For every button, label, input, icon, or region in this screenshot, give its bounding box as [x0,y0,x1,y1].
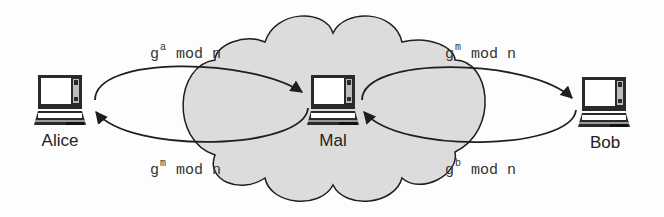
msg-rest: mod n [462,162,516,179]
msg-rest: mod n [167,162,221,179]
msg-exponent: b [455,158,461,169]
msg-base: g [445,46,454,63]
node-label-bob: Bob [590,133,620,152]
msg-exponent: m [455,42,461,53]
msg-exponent: a [160,42,166,53]
msg-label-bob-to-mal: g b mod n [445,158,516,179]
alice-laptop-icon [34,75,86,125]
diagram-svg: Alice Mal Bob g a mod n g m mod n g m mo… [0,0,664,217]
diagram-canvas: Alice Mal Bob g a mod n g m mod n g m mo… [0,0,664,217]
msg-rest: mod n [167,46,221,63]
msg-exponent: m [160,158,166,169]
bob-laptop-icon [578,77,630,127]
msg-base: g [150,46,159,63]
msg-rest: mod n [462,46,516,63]
msg-base: g [445,162,454,179]
msg-base: g [150,162,159,179]
node-label-alice: Alice [42,131,79,150]
msg-label-mal-to-alice: g m mod n [150,158,221,179]
msg-label-alice-to-mal: g a mod n [150,42,221,63]
mal-laptop-icon [307,75,359,125]
node-label-mal: Mal [319,131,346,150]
